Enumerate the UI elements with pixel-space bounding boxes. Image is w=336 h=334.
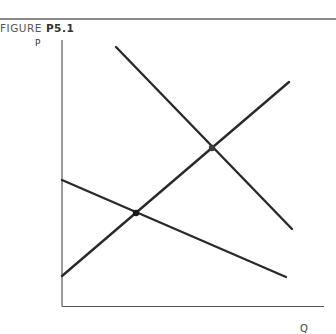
line-shallow-downward [62,180,286,277]
intersection-point-upper [209,145,215,151]
line-steep-downward [116,47,292,229]
intersection-point-lower [133,210,139,216]
line-upward [62,82,289,276]
